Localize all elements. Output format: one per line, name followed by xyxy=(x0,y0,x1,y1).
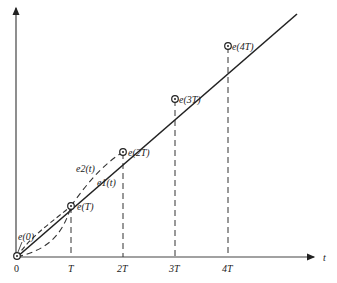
tick-4T: 4T xyxy=(222,263,234,274)
tick-T: T xyxy=(68,263,75,274)
label-e2-curve: e2(t) xyxy=(76,163,96,175)
x-axis-label: t xyxy=(323,252,326,263)
label-e4T: e(4T) xyxy=(232,41,254,53)
e0-pointer xyxy=(18,242,22,252)
label-e3T: e(3T) xyxy=(179,94,201,106)
sampled-signal-diagram: e(0) e(T) e(2T) e(3T) e(4T) e2(t) e1(t) … xyxy=(0,0,337,283)
label-e1-curve: e1(t) xyxy=(97,177,117,189)
e1-line xyxy=(17,14,297,257)
label-eT: e(T) xyxy=(77,201,94,213)
label-e2T: e(2T) xyxy=(128,147,150,159)
tick-3T: 3T xyxy=(168,263,181,274)
tick-2T: 2T xyxy=(117,263,129,274)
tick-origin: 0 xyxy=(14,263,19,274)
label-e0: e(0) xyxy=(18,231,35,243)
